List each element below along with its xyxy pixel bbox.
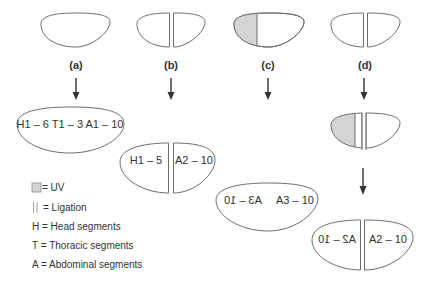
uv-irradiated-region bbox=[330, 112, 355, 150]
legend-head: H = Head segments bbox=[32, 221, 121, 232]
panel-c: (c) A3 – 10 A3 – 10 bbox=[216, 12, 318, 231]
segments-c-left-mirrored: A3 – 10 bbox=[224, 194, 262, 206]
arrow-down-icon bbox=[360, 168, 367, 195]
arrow-down-icon bbox=[168, 78, 175, 100]
ligation-symbol-icon bbox=[34, 202, 38, 213]
legend-abdominal: A = Abdominal segments bbox=[32, 259, 142, 270]
segments-c-right: A3 – 10 bbox=[276, 194, 314, 206]
egg-b-posterior-half bbox=[174, 13, 206, 47]
arrow-down-icon bbox=[73, 78, 80, 100]
segments-b-left: H1 – 5 bbox=[130, 154, 162, 166]
legend-thoracic: T = Thoracic segments bbox=[32, 240, 134, 251]
arrow-down-icon bbox=[265, 78, 272, 100]
panel-label-a: (a) bbox=[69, 59, 83, 71]
embryo-d-posterior-fragment bbox=[365, 220, 414, 270]
embryo-b-posterior-fragment bbox=[174, 143, 216, 193]
legend-uv: = UV bbox=[42, 182, 65, 193]
uv-swatch-icon bbox=[32, 183, 41, 192]
embryo-a-result bbox=[17, 107, 124, 153]
legend-ligation: = Ligation bbox=[43, 202, 87, 213]
panel-b: (b) H1 – 5 A2 – 10 bbox=[120, 13, 215, 193]
panel-a: (a) H1 – 6 T1 – 3 A1 – 10 bbox=[17, 13, 124, 153]
panel-label-c: (c) bbox=[261, 59, 275, 71]
egg-d-anterior-half bbox=[331, 13, 364, 47]
embryo-b-anterior-fragment bbox=[120, 143, 169, 193]
segments-a: H1 – 6 T1 – 3 A1 – 10 bbox=[17, 118, 124, 130]
egg-d-posterior-half bbox=[368, 13, 401, 47]
segments-b-right: A2 – 10 bbox=[175, 154, 213, 166]
segments-d-right: A2 – 10 bbox=[369, 233, 407, 245]
egg-b-anterior-half bbox=[137, 13, 170, 47]
segments-d-left-mirrored: A2 – 10 bbox=[318, 233, 356, 245]
embryo-d-anterior-fragment bbox=[312, 220, 361, 270]
ligation-band bbox=[363, 110, 366, 151]
embryo-experiment-diagram: (a) H1 – 6 T1 – 3 A1 – 10 (b) H1 – 5 A2 … bbox=[0, 0, 429, 288]
egg-a-initial bbox=[41, 13, 110, 47]
panel-label-d: (d) bbox=[358, 59, 372, 71]
arrow-down-icon bbox=[361, 78, 368, 100]
uv-irradiated-region bbox=[233, 12, 257, 48]
panel-d: (d) A2 – 10 A2 – 10 bbox=[312, 13, 413, 270]
legend: = UV = Ligation H = Head segments T = Th… bbox=[32, 182, 142, 270]
panel-label-b: (b) bbox=[164, 59, 178, 71]
embryo-c-result bbox=[216, 183, 318, 231]
